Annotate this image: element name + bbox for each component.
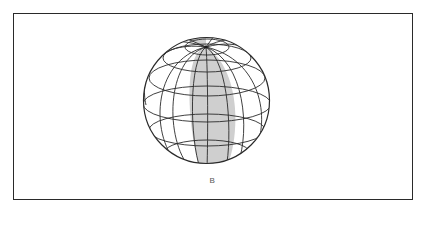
pole-point [204,45,207,48]
figure-caption: B [0,176,425,185]
